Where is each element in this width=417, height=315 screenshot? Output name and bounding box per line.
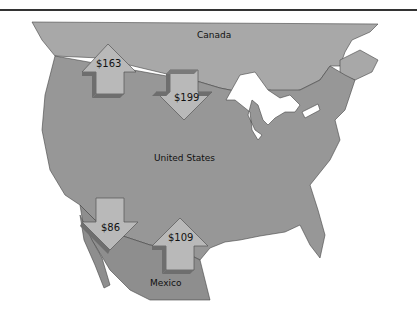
us-label: United States [154, 153, 215, 163]
value-199: $199 [174, 92, 199, 103]
canada-label: Canada [197, 30, 231, 40]
value-109: $109 [168, 232, 193, 243]
value-86: $86 [101, 222, 120, 233]
mexico-label: Mexico [150, 278, 181, 288]
value-163: $163 [96, 58, 121, 69]
